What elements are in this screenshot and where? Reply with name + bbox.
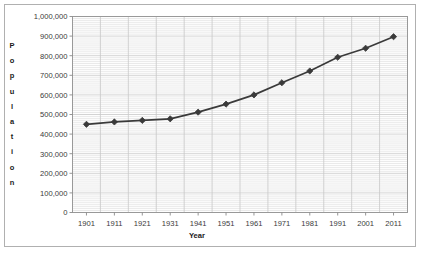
y-axis-tick-label: 400,000 — [40, 130, 67, 139]
y-axis-tick-label: 800,000 — [40, 52, 67, 61]
y-axis-title-letter: o — [10, 163, 15, 172]
data-point-marker — [223, 101, 229, 107]
y-axis-tick-label: 100,000 — [40, 189, 67, 198]
y-axis-title-letter: i — [11, 147, 13, 156]
line-chart: 0100,000200,000300,000400,000500,000600,… — [0, 0, 424, 259]
y-axis-tick-label: 600,000 — [40, 91, 67, 100]
y-axis-title-letter: n — [10, 178, 15, 187]
y-axis-tick-label: 200,000 — [40, 169, 67, 178]
x-axis-tick-label: 1951 — [218, 219, 235, 228]
x-axis-tick-label: 1901 — [78, 219, 95, 228]
x-axis-tick-label: 1911 — [106, 219, 122, 228]
data-point-marker — [390, 34, 396, 40]
y-axis-title: Population — [9, 41, 14, 187]
x-axis-title-label: Year — [189, 231, 205, 240]
chart-figure: 0100,000200,000300,000400,000500,000600,… — [0, 0, 424, 259]
x-axis-tick-label: 1961 — [246, 219, 263, 228]
y-axis-title-letter: l — [11, 102, 13, 111]
y-axis-tick-label: 300,000 — [40, 150, 67, 159]
x-axis-tick-label: 1991 — [329, 219, 346, 228]
y-axis-title-letter: o — [10, 56, 15, 65]
y-axis-title-letter: t — [11, 132, 14, 141]
y-axis-title-letter: P — [9, 41, 14, 50]
y-axis-title-letter: u — [10, 87, 15, 96]
y-axis-title-letter: a — [10, 117, 15, 126]
y-axis-title-letter: p — [10, 71, 15, 80]
x-axis-tick-label: 1921 — [134, 219, 151, 228]
y-axis-tick-label: 1,000,000 — [34, 12, 68, 21]
x-axis-tick-label: 2011 — [385, 219, 401, 228]
y-axis-tick-label: 900,000 — [40, 32, 67, 41]
x-axis-tick-label: 1981 — [301, 219, 318, 228]
y-axis-tick-label: 0 — [63, 208, 67, 217]
x-axis-tick-label: 2001 — [357, 219, 374, 228]
y-axis-tick-label: 700,000 — [40, 71, 67, 80]
y-axis-tick-label: 500,000 — [40, 110, 67, 119]
x-axis-tick-label: 1941 — [190, 219, 207, 228]
x-axis-tick-label: 1971 — [273, 219, 290, 228]
x-axis-tick-label: 1931 — [162, 219, 179, 228]
y-axis-tick-labels: 0100,000200,000300,000400,000500,000600,… — [34, 12, 68, 217]
x-axis-tick-labels: 1901191119211931194119511961197119811991… — [78, 219, 402, 228]
chart-canvas: 0100,000200,000300,000400,000500,000600,… — [0, 0, 424, 259]
